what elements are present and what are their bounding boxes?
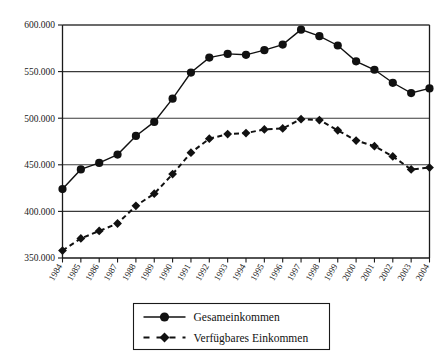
data-point-gesameinkommen-1990 <box>169 95 177 103</box>
chart-legend: GesameinkommenVerfügbares Einkommen <box>134 304 330 350</box>
data-point-gesameinkommen-2003 <box>407 89 415 97</box>
line-chart: 350.000400.000450.000500.000550.000600.0… <box>0 0 446 362</box>
data-point-gesameinkommen-1987 <box>113 150 121 158</box>
legend-label-1: Gesameinkommen <box>194 311 280 323</box>
data-point-gesameinkommen-1996 <box>279 40 287 48</box>
legend-label-2: Verfügbares Einkommen <box>194 332 309 345</box>
data-point-gesameinkommen-2004 <box>425 84 433 92</box>
data-point-gesameinkommen-2001 <box>370 66 378 74</box>
data-point-gesameinkommen-2000 <box>352 57 360 65</box>
data-point-gesameinkommen-1995 <box>260 46 268 54</box>
y-tick-label-450.000: 450.000 <box>24 160 55 170</box>
data-point-gesameinkommen-1988 <box>132 132 140 140</box>
data-point-gesameinkommen-1999 <box>334 41 342 49</box>
data-point-gesameinkommen-1986 <box>95 159 103 167</box>
y-tick-label-400.000: 400.000 <box>24 207 55 217</box>
data-point-gesameinkommen-1992 <box>205 54 213 62</box>
y-tick-label-550.000: 550.000 <box>24 67 55 77</box>
data-point-gesameinkommen-2002 <box>389 79 397 87</box>
data-point-gesameinkommen-1994 <box>242 51 250 59</box>
data-point-gesameinkommen-1997 <box>297 26 305 34</box>
y-tick-label-350.000: 350.000 <box>24 253 55 263</box>
legend-circle-marker <box>160 312 169 321</box>
data-point-gesameinkommen-1993 <box>224 50 232 58</box>
chart-container: 350.000400.000450.000500.000550.000600.0… <box>0 0 446 362</box>
y-tick-label-500.000: 500.000 <box>24 114 55 124</box>
x-axis-ticks <box>63 258 430 263</box>
data-point-gesameinkommen-1985 <box>77 165 85 173</box>
data-point-gesameinkommen-1989 <box>150 118 158 126</box>
data-point-gesameinkommen-1991 <box>187 68 195 76</box>
y-tick-label-600.000: 600.000 <box>24 20 55 30</box>
data-point-gesameinkommen-1984 <box>58 185 66 193</box>
data-point-gesameinkommen-1998 <box>315 32 323 40</box>
